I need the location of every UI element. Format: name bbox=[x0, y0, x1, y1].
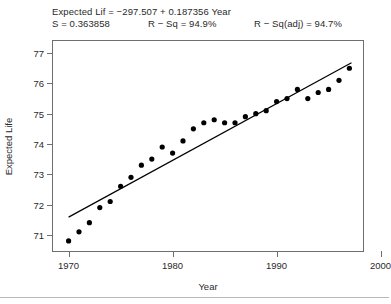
data-point bbox=[108, 199, 113, 204]
data-point bbox=[336, 78, 341, 83]
data-point bbox=[264, 108, 269, 113]
data-point bbox=[149, 157, 154, 162]
y-axis-tick-label: 73 bbox=[33, 169, 44, 180]
data-point bbox=[274, 99, 279, 104]
y-axis-tick bbox=[47, 83, 53, 84]
y-axis-tick bbox=[47, 174, 53, 175]
x-axis-tick-label: 1990 bbox=[266, 260, 287, 271]
x-axis-title: Year bbox=[52, 281, 364, 292]
y-axis-title: Expected Life bbox=[2, 40, 16, 252]
y-axis-tick bbox=[47, 144, 53, 145]
data-point bbox=[76, 229, 81, 234]
data-point bbox=[243, 114, 248, 119]
data-point bbox=[326, 87, 331, 92]
x-axis-tick-label: 1980 bbox=[162, 260, 183, 271]
stat-s: S = 0.363858 bbox=[52, 18, 110, 30]
y-axis-tick-label: 77 bbox=[33, 48, 44, 59]
data-point bbox=[170, 150, 175, 155]
x-axis-tick-label: 1970 bbox=[58, 260, 79, 271]
x-axis-tick-label: 2000 bbox=[370, 260, 391, 271]
data-point bbox=[191, 126, 196, 131]
plot-area: 717273747576771970198019902000 bbox=[52, 40, 364, 252]
data-point bbox=[97, 205, 102, 210]
y-axis-tick bbox=[47, 53, 53, 54]
data-point bbox=[118, 184, 123, 189]
data-point bbox=[222, 120, 227, 125]
x-axis-tick bbox=[69, 251, 70, 257]
data-point bbox=[316, 90, 321, 95]
data-point bbox=[305, 96, 310, 101]
y-axis-tick-label: 76 bbox=[33, 78, 44, 89]
y-axis-tick bbox=[47, 205, 53, 206]
scatter-series-layer bbox=[53, 41, 365, 253]
y-axis-tick-label: 75 bbox=[33, 108, 44, 119]
data-point bbox=[201, 120, 206, 125]
y-axis-tick-label: 74 bbox=[33, 138, 44, 149]
data-point bbox=[160, 144, 165, 149]
footer-divider bbox=[0, 297, 389, 298]
data-point bbox=[347, 66, 352, 71]
data-point bbox=[87, 220, 92, 225]
data-point bbox=[253, 111, 258, 116]
plot-inner: 717273747576771970198019902000 bbox=[53, 41, 363, 251]
data-point bbox=[139, 163, 144, 168]
stat-r-squared-adjusted: R − Sq(adj) = 94.7% bbox=[254, 18, 342, 30]
data-point bbox=[128, 175, 133, 180]
y-axis-tick bbox=[47, 235, 53, 236]
y-axis-tick-label: 72 bbox=[33, 199, 44, 210]
y-axis-tick bbox=[47, 114, 53, 115]
y-axis-tick-label: 71 bbox=[33, 229, 44, 240]
regression-equation: Expected Lif = −297.507 + 0.187356 Year bbox=[52, 6, 231, 18]
x-axis-tick bbox=[381, 251, 382, 257]
data-point bbox=[180, 138, 185, 143]
regression-line bbox=[69, 63, 352, 217]
x-axis-tick bbox=[173, 251, 174, 257]
stat-r-squared: R − Sq = 94.9% bbox=[148, 18, 216, 30]
data-point bbox=[295, 87, 300, 92]
data-point bbox=[284, 96, 289, 101]
data-point bbox=[212, 117, 217, 122]
data-point bbox=[66, 238, 71, 243]
data-point bbox=[232, 120, 237, 125]
x-axis-tick bbox=[277, 251, 278, 257]
